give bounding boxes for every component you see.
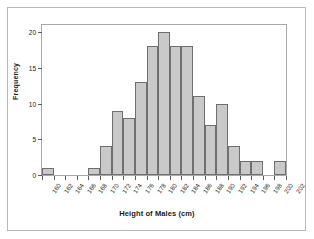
histogram-bar xyxy=(112,111,124,175)
histogram-bar xyxy=(135,82,147,175)
y-axis-tick xyxy=(38,104,42,105)
histogram-bar xyxy=(100,146,112,175)
x-axis-tick xyxy=(216,176,217,180)
histogram-bar xyxy=(123,118,135,175)
y-axis-tick xyxy=(38,68,42,69)
plot-area xyxy=(42,25,286,175)
histogram-bar xyxy=(205,125,217,175)
histogram-bar xyxy=(147,46,159,175)
histogram-bar xyxy=(251,161,263,175)
y-axis-title: Frequency xyxy=(12,63,19,100)
x-axis-tick xyxy=(123,176,124,180)
x-axis-tick xyxy=(158,176,159,180)
x-axis-tick xyxy=(42,176,43,180)
x-axis-tick xyxy=(100,176,101,180)
histogram-bar xyxy=(88,168,100,175)
x-axis-tick xyxy=(181,176,182,180)
y-axis-tick-label: 20 xyxy=(29,29,36,36)
x-axis: 1601621641661681701721741761781801821841… xyxy=(42,176,286,177)
x-axis-tick xyxy=(54,176,55,180)
x-axis-tick xyxy=(286,176,287,180)
x-axis-tick xyxy=(77,176,78,180)
x-axis-tick xyxy=(147,176,148,180)
histogram-bar xyxy=(240,161,252,175)
histogram-bar xyxy=(181,46,193,175)
histogram-bar xyxy=(158,32,170,175)
y-axis-tick-label: 10 xyxy=(29,100,36,107)
x-axis-tick xyxy=(274,176,275,180)
histogram-bar xyxy=(228,146,240,175)
x-axis-tick xyxy=(240,176,241,180)
x-axis-tick xyxy=(135,176,136,180)
x-axis-title: Height of Males (cm) xyxy=(0,209,314,218)
x-axis-tick xyxy=(228,176,229,180)
x-axis-tick xyxy=(170,176,171,180)
x-axis-tick xyxy=(251,176,252,180)
x-axis-tick xyxy=(205,176,206,180)
histogram-bar xyxy=(170,46,182,175)
y-axis-tick-label: 0 xyxy=(32,172,36,179)
x-axis-tick xyxy=(112,176,113,180)
histogram-figure: 05101520 Frequency 160162164166168170172… xyxy=(0,0,314,239)
histogram-bar xyxy=(274,161,286,175)
y-axis: 05101520 xyxy=(41,24,42,176)
y-axis-tick xyxy=(38,139,42,140)
x-axis-tick xyxy=(193,176,194,180)
y-axis-tick-label: 5 xyxy=(32,136,36,143)
histogram-bars xyxy=(42,25,286,175)
x-axis-tick xyxy=(263,176,264,180)
x-axis-tick xyxy=(65,176,66,180)
y-axis-tick xyxy=(38,32,42,33)
histogram-bar xyxy=(42,168,54,175)
histogram-bar xyxy=(193,96,205,175)
histogram-bar xyxy=(216,104,228,175)
x-axis-tick xyxy=(88,176,89,180)
y-axis-tick-label: 15 xyxy=(29,64,36,71)
